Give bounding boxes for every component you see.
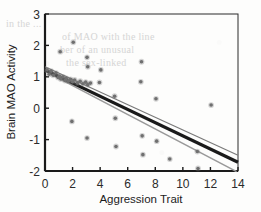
y-tick-label: -1 bbox=[29, 133, 40, 147]
y-axis-title: Brain MAO Activity bbox=[5, 44, 17, 139]
data-point bbox=[114, 116, 118, 120]
data-point bbox=[196, 167, 200, 171]
data-point bbox=[99, 68, 103, 72]
data-point bbox=[155, 139, 159, 143]
data-point bbox=[140, 60, 144, 64]
data-point bbox=[71, 40, 75, 44]
scatter-plot: 3210-1-2 02468101214 Aggression Trait Br… bbox=[0, 0, 261, 212]
x-tick-label: 0 bbox=[42, 177, 49, 191]
x-tick-label: 6 bbox=[124, 177, 131, 191]
data-point bbox=[141, 153, 145, 157]
y-tick-label: 2 bbox=[33, 39, 40, 53]
data-point bbox=[89, 81, 93, 85]
data-point bbox=[154, 97, 158, 101]
data-point bbox=[196, 150, 200, 154]
data-point bbox=[70, 120, 74, 124]
data-point bbox=[168, 157, 172, 161]
x-tick-label: 4 bbox=[97, 177, 104, 191]
plot-svg: 3210-1-2 02468101214 Aggression Trait Br… bbox=[0, 0, 261, 212]
y-tick-label: 1 bbox=[33, 70, 40, 84]
x-tick-label: 12 bbox=[204, 177, 218, 191]
x-tick-label: 8 bbox=[152, 177, 159, 191]
x-tick-label: 10 bbox=[176, 177, 190, 191]
data-point bbox=[140, 134, 144, 138]
y-tick-label: 0 bbox=[33, 102, 40, 116]
data-point bbox=[139, 80, 143, 84]
x-tick-label: 2 bbox=[69, 177, 76, 191]
x-axis-tick-labels: 02468101214 bbox=[42, 177, 245, 191]
y-axis-tick-labels: 3210-1-2 bbox=[29, 8, 40, 179]
data-point bbox=[113, 94, 117, 98]
y-tick-label: -2 bbox=[29, 165, 40, 179]
data-point bbox=[58, 50, 62, 54]
x-axis-title: Aggression Trait bbox=[99, 193, 183, 205]
data-point bbox=[85, 56, 89, 60]
data-point bbox=[85, 136, 89, 140]
data-point bbox=[98, 81, 102, 85]
data-point bbox=[49, 69, 53, 73]
y-tick-label: 3 bbox=[33, 8, 40, 22]
data-point bbox=[86, 65, 90, 69]
figure-root: in the ... of MAO with the line ber of a… bbox=[0, 0, 261, 212]
x-tick-label: 14 bbox=[231, 177, 245, 191]
data-point bbox=[209, 103, 213, 107]
data-point bbox=[114, 145, 118, 149]
